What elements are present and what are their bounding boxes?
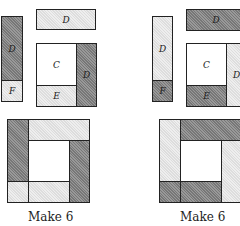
right-strip-d: D [152, 16, 173, 81]
left-strip-f: F [1, 80, 23, 102]
right-assembled-right [221, 140, 240, 203]
label: E [53, 91, 60, 101]
left-assembled-right [69, 140, 90, 203]
label: D [8, 44, 15, 54]
label: D [83, 70, 90, 80]
right-assembled-bottom [180, 181, 222, 203]
right-block-d: D [226, 43, 240, 107]
left-caption: Make 6 [28, 210, 73, 224]
left-strip-d: D [1, 16, 23, 81]
label: C [203, 60, 210, 70]
left-assembled-top [28, 119, 90, 141]
label: F [159, 86, 165, 96]
right-assembled-left [159, 119, 181, 182]
left-assembled-bottom [28, 181, 70, 203]
label: D [212, 15, 219, 25]
right-assembled-corner [159, 181, 181, 203]
label: D [62, 15, 69, 25]
right-assembled-center [180, 140, 222, 182]
left-block-c: C [36, 43, 77, 86]
label: D [159, 44, 166, 54]
label: D [233, 70, 240, 80]
left-block-d: D [76, 43, 97, 107]
left-assembled-center [28, 140, 70, 182]
right-assembled-top [180, 119, 240, 141]
left-top-bar-d: D [36, 9, 96, 30]
label: E [203, 91, 210, 101]
label: F [9, 86, 15, 96]
left-assembled-left [7, 119, 29, 182]
left-block-e: E [36, 85, 77, 107]
right-strip-f: F [152, 80, 173, 102]
right-block-c: C [186, 43, 227, 86]
left-assembled-corner [7, 181, 29, 203]
label: C [53, 60, 60, 70]
right-caption: Make 6 [180, 210, 225, 224]
right-block-e: E [186, 85, 227, 107]
right-top-bar-d: D [186, 9, 240, 31]
